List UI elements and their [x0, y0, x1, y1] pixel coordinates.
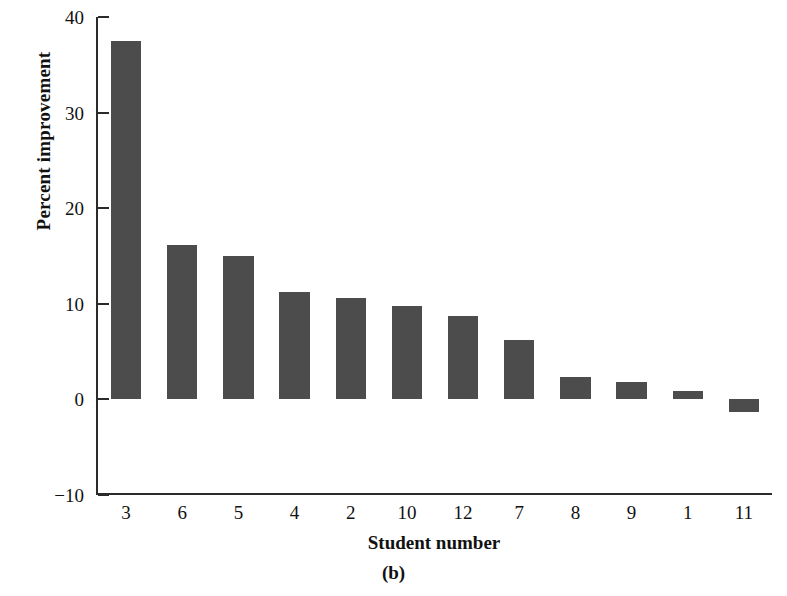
- y-axis-tick-label: 30: [65, 103, 84, 122]
- x-axis-tick-label: 10: [379, 503, 435, 522]
- x-axis-title: Student number: [96, 532, 772, 554]
- x-axis-tick-label: 1: [660, 503, 716, 522]
- bar-group: 5: [210, 17, 266, 495]
- bar-group: 3: [98, 17, 154, 495]
- x-axis-tick-label: 6: [154, 503, 210, 522]
- x-axis-tick-label: 9: [604, 503, 660, 522]
- bar-group: 1: [660, 17, 716, 495]
- bar: [279, 292, 309, 399]
- bar-group: 9: [604, 17, 660, 495]
- bar: [336, 298, 366, 399]
- bar: [616, 382, 646, 399]
- bar-group: 12: [435, 17, 491, 495]
- bar: [504, 340, 534, 399]
- y-axis-tick-label: 40: [65, 8, 84, 27]
- x-axis-tick-label: 11: [716, 503, 772, 522]
- x-axis-tick-label: 12: [435, 503, 491, 522]
- bar-group: 11: [716, 17, 772, 495]
- x-axis-tick-label: 8: [547, 503, 603, 522]
- bar: [223, 256, 253, 399]
- bar-series: 365421012789111: [98, 17, 772, 495]
- bar: [560, 377, 590, 399]
- figure-caption: (b): [0, 562, 787, 584]
- bar: [111, 41, 141, 400]
- y-axis-tick-label: 20: [65, 199, 84, 218]
- bar-group: 10: [379, 17, 435, 495]
- x-axis-tick-label: 7: [491, 503, 547, 522]
- bar-group: 6: [154, 17, 210, 495]
- y-axis-title: Percent improvement: [33, 11, 55, 271]
- y-axis-tick-label: −10: [54, 486, 84, 505]
- bar-chart-figure: Percent improvement 403020100−10 3654210…: [0, 0, 787, 596]
- bar-group: 2: [323, 17, 379, 495]
- bar: [448, 316, 478, 399]
- y-axis-tick-label: 10: [65, 294, 84, 313]
- x-axis-tick-label: 3: [98, 503, 154, 522]
- bar-group: 7: [491, 17, 547, 495]
- bar-group: 4: [267, 17, 323, 495]
- bar-group: 8: [547, 17, 603, 495]
- bar: [673, 391, 703, 400]
- x-axis-tick-label: 5: [210, 503, 266, 522]
- bar: [167, 245, 197, 399]
- x-axis-tick-label: 2: [323, 503, 379, 522]
- plot-area: 403020100−10 365421012789111: [96, 17, 772, 495]
- y-axis-tick-label: 0: [75, 390, 85, 409]
- x-axis-tick-label: 4: [267, 503, 323, 522]
- bar: [392, 306, 422, 400]
- bar: [729, 399, 759, 411]
